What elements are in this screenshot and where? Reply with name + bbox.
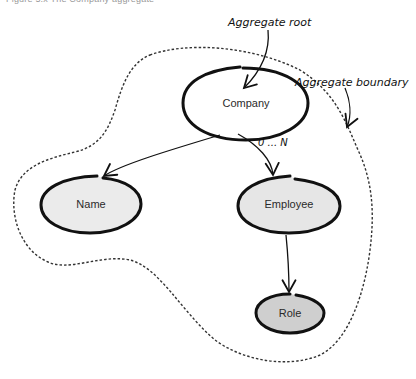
- aggregate-root-annotation: Aggregate root: [227, 16, 312, 29]
- node-name[interactable]: Name: [41, 176, 141, 233]
- edge-company-name: [104, 135, 220, 176]
- node-employee[interactable]: Employee: [238, 176, 340, 233]
- aggregate-boundary-annotation: Aggregate boundary: [294, 76, 409, 89]
- employee-label: Employee: [265, 198, 314, 210]
- multiplicity-label: 0 ... N: [258, 137, 288, 148]
- node-role[interactable]: Role: [256, 294, 324, 333]
- role-label: Role: [279, 307, 302, 319]
- node-company[interactable]: Company: [183, 67, 308, 140]
- aggregate-boundary-pointer: [345, 88, 350, 127]
- company-label: Company: [222, 97, 270, 109]
- edge-employee-role: [286, 235, 289, 292]
- aggregate-diagram: Company Name Employee Role Aggregate roo…: [0, 0, 416, 379]
- name-label: Name: [76, 198, 105, 210]
